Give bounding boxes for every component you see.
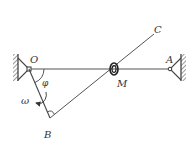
right-wall-hatch	[181, 54, 186, 81]
mechanism-diagram: O A C M B φ ω	[0, 0, 196, 142]
label-omega: ω	[21, 95, 29, 106]
label-phi: φ	[42, 78, 49, 88]
left-wall-support	[13, 54, 31, 81]
label-m: M	[116, 78, 128, 89]
label-a: A	[165, 54, 173, 65]
rod-bc	[50, 34, 154, 118]
label-c: C	[154, 24, 162, 35]
left-wall-hatch	[13, 54, 18, 81]
label-o: O	[30, 54, 38, 65]
pivot-a	[168, 67, 172, 71]
label-b: B	[43, 129, 51, 140]
crank-ob	[29, 69, 50, 118]
